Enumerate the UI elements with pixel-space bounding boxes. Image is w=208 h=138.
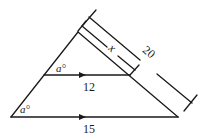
- long-side-label: 20: [140, 43, 158, 61]
- similar-triangles-diagram: a° a° 12 15 x 20: [0, 0, 208, 138]
- long-tick-top: [83, 10, 96, 25]
- middle-arrow-icon: [79, 72, 86, 78]
- short-side-label: x: [105, 40, 119, 55]
- base-segment-label: 15: [83, 122, 95, 136]
- bottom-angle-label: a°: [20, 103, 31, 115]
- middle-segment-label: 12: [83, 80, 95, 94]
- top-angle-label: a°: [56, 62, 67, 74]
- long-dimension-line-lower: [157, 74, 192, 103]
- base-arrow-icon: [79, 114, 86, 120]
